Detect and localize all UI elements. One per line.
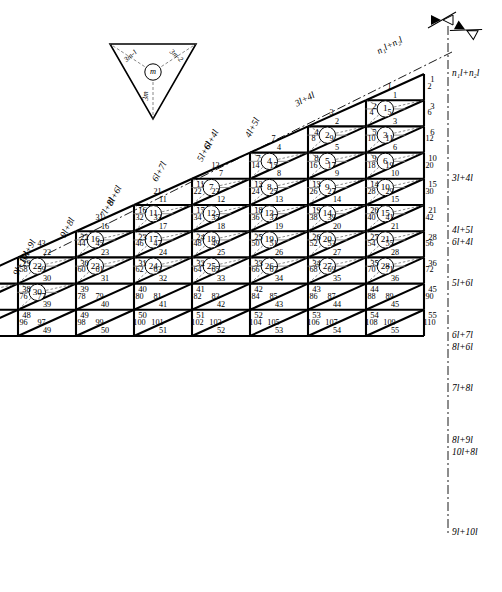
member-number: 51 [159, 326, 167, 335]
member-number: 9 [329, 134, 333, 143]
member-number: 61 [95, 265, 103, 274]
node-number: 3 [430, 101, 434, 111]
node-number: 11 [196, 179, 204, 189]
dimension-label-right: 10l+8l [452, 447, 478, 457]
member-number: 109 [383, 318, 395, 327]
member-number: 7 [219, 169, 223, 178]
member-number: 7 [271, 134, 275, 143]
node-number: 22 [80, 232, 89, 242]
member-number: 35 [211, 213, 219, 222]
member-number: 4 [277, 143, 281, 152]
dimension-label-right: 9l+10l [452, 527, 478, 537]
member-number: 105 [267, 318, 279, 327]
member-number: 37 [269, 213, 277, 222]
node-number: 24 [196, 232, 205, 242]
node-number: 36 [428, 258, 437, 268]
member-number: 63 [153, 265, 161, 274]
member-number: 3 [393, 117, 397, 126]
member-number: 13 [275, 195, 283, 204]
member-number: 45 [391, 300, 399, 309]
node-number: 23 [138, 232, 147, 242]
member-number: 29 [385, 187, 393, 196]
dimension-label-right: 8l+9l [452, 435, 473, 445]
member-number: 43 [37, 239, 45, 248]
node-number: 35 [370, 258, 379, 268]
dimension-label-right: 6l+7l [452, 330, 473, 340]
member-number: 6 [393, 143, 397, 152]
member-number: 41 [385, 213, 393, 222]
truss-diagram-svg: m3m-13m-23m 1234567891011121314151617181… [0, 0, 502, 592]
member-number: 65 [211, 265, 219, 274]
node-number: 20 [370, 205, 379, 215]
member-number: 40 [101, 300, 109, 309]
node-number: 52 [254, 310, 263, 320]
node-number: 10 [428, 153, 437, 163]
node-number: 39 [80, 284, 89, 294]
member-number: 107 [325, 318, 337, 327]
member-number: 9 [335, 169, 339, 178]
dimension-label-right: 3l+4l [451, 173, 473, 183]
figure-canvas: m3m-13m-23m 1234567891011121314151617181… [0, 0, 502, 592]
member-number: 33 [217, 274, 225, 283]
node-number: 49 [80, 310, 89, 320]
node-number: 2 [372, 101, 376, 111]
node-number: 30 [80, 258, 89, 268]
member-number: 53 [327, 239, 335, 248]
member-number: 19 [275, 222, 283, 231]
node-number: 12 [254, 179, 263, 189]
member-number: 83 [211, 292, 219, 301]
member-number: 18 [217, 222, 225, 231]
member-number: 39 [327, 213, 335, 222]
member-number: 79 [95, 292, 103, 301]
node-number: 44 [370, 284, 379, 294]
node-number: 9 [372, 153, 376, 163]
member-number: 89 [385, 292, 393, 301]
node-number: 42 [254, 284, 263, 294]
dimension-label-right: n₁l+n₂l [452, 68, 480, 78]
node-number: 5 [372, 127, 376, 137]
member-number: 5 [387, 108, 391, 117]
node-number: 4 [314, 127, 319, 137]
member-number: 41 [159, 300, 167, 309]
node-number: 13 [312, 179, 321, 189]
member-number: 2 [335, 117, 339, 126]
node-number: 50 [138, 310, 147, 320]
member-number: 99 [95, 318, 103, 327]
node-number: 21 [428, 205, 437, 215]
member-number: 39 [43, 300, 51, 309]
node-number: 19 [312, 205, 321, 215]
member-number: 12 [217, 195, 225, 204]
member-number: 15 [269, 161, 277, 170]
member-number: 1 [387, 82, 391, 91]
member-number: 103 [209, 318, 221, 327]
node-number: 6 [430, 127, 435, 137]
member-number: 27 [327, 187, 335, 196]
member-number: 52 [217, 326, 225, 335]
node-number: 48 [22, 310, 31, 320]
node-number: 32 [196, 258, 205, 268]
member-number: 54 [333, 326, 341, 335]
member-number: 20 [333, 222, 341, 231]
member-number: 14 [333, 195, 341, 204]
node-number: 53 [312, 310, 321, 320]
dimension-label-right: 5l+6l [452, 278, 473, 288]
member-number: 101 [151, 318, 163, 327]
member-number: 17 [327, 161, 335, 170]
node-number: 51 [196, 310, 205, 320]
dimension-label-right: 6l+4l [452, 237, 473, 247]
member-number: 81 [153, 292, 161, 301]
node-number: 41 [196, 284, 205, 294]
member-number: 5 [335, 143, 339, 152]
member-number: 10 [391, 169, 399, 178]
member-number: 53 [275, 326, 283, 335]
node-number: 27 [370, 232, 379, 242]
member-number: 36 [391, 274, 399, 283]
member-number: 97 [37, 318, 45, 327]
dimension-label-right: 4l+5l [452, 225, 473, 235]
node-number: 33 [254, 258, 263, 268]
member-number: 44 [333, 300, 341, 309]
node-number: 45 [428, 284, 437, 294]
node-number: 8 [314, 153, 318, 163]
member-number: 59 [37, 265, 45, 274]
member-number: 49 [43, 326, 51, 335]
